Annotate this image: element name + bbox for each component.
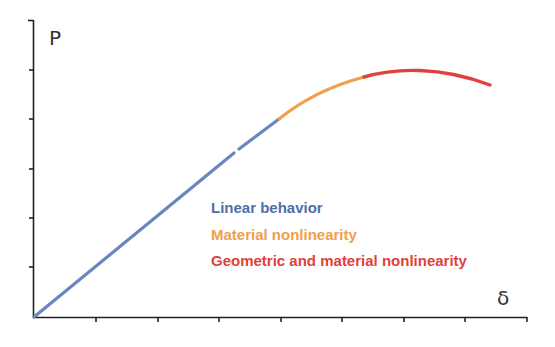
legend-linear-behavior: Linear behavior: [211, 195, 467, 222]
y-axis: [28, 20, 34, 318]
legend-geometric-material-nonlinearity: Geometric and material nonlinearity: [211, 248, 467, 275]
x-axis-label: δ: [497, 286, 509, 310]
series-geometric-material-nonlinearity: [364, 70, 490, 85]
x-axis: [33, 317, 527, 322]
legend: Linear behavior Material nonlinearity Ge…: [211, 195, 467, 275]
series-material-nonlinearity: [279, 77, 364, 119]
legend-material-nonlinearity: Material nonlinearity: [211, 222, 467, 249]
load-displacement-chart: [0, 0, 555, 347]
y-axis-label: P: [49, 26, 61, 50]
